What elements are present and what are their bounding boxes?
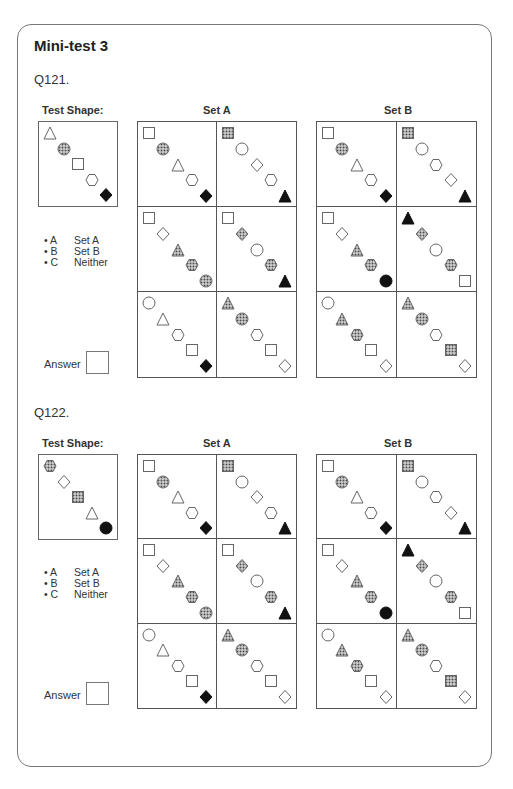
hexagon-icon xyxy=(250,659,264,673)
diamond-icon xyxy=(379,521,393,535)
set-b-cell-2 xyxy=(397,122,477,207)
set-a-header: Set A xyxy=(203,104,231,116)
square-icon xyxy=(458,606,472,620)
triangle-icon xyxy=(335,643,349,657)
square-icon xyxy=(321,126,335,140)
triangle-icon xyxy=(156,643,170,657)
diamond-icon xyxy=(250,490,264,504)
triangle-icon xyxy=(350,490,364,504)
hexagon-icon xyxy=(429,490,443,504)
triangle-icon xyxy=(171,574,185,588)
diamond-icon xyxy=(278,690,292,704)
hexagon-icon xyxy=(429,328,443,342)
square-icon xyxy=(321,459,335,473)
diamond-icon xyxy=(199,189,213,203)
circle-icon xyxy=(415,643,429,657)
set-a-cell-4 xyxy=(217,539,296,623)
set-b-cell-5 xyxy=(317,292,397,377)
question-label-q122: Q122. xyxy=(34,405,69,420)
diamond-icon xyxy=(250,158,264,172)
triangle-icon xyxy=(401,628,415,642)
triangle-icon xyxy=(85,506,99,520)
circle-icon xyxy=(335,142,349,156)
diamond-icon xyxy=(444,506,458,520)
circle-icon xyxy=(429,574,443,588)
option-c[interactable]: • CNeither xyxy=(44,257,108,268)
circle-icon xyxy=(235,142,249,156)
triangle-icon xyxy=(350,158,364,172)
set-a-cell-1 xyxy=(138,122,217,207)
triangle-icon xyxy=(171,243,185,257)
circle-icon xyxy=(250,574,264,588)
set-a-cell-5 xyxy=(138,292,217,377)
hexagon-icon xyxy=(364,258,378,272)
hexagon-icon xyxy=(350,659,364,673)
hexagon-icon xyxy=(171,328,185,342)
square-icon xyxy=(264,674,278,688)
set-b-cell-2 xyxy=(397,455,477,539)
hexagon-icon xyxy=(185,173,199,187)
hexagon-icon xyxy=(250,328,264,342)
hexagon-icon xyxy=(444,258,458,272)
set-b-cell-1 xyxy=(317,455,397,539)
set-b-cell-6 xyxy=(397,292,477,377)
triangle-icon xyxy=(278,274,292,288)
circle-icon xyxy=(235,643,249,657)
circle-icon xyxy=(199,274,213,288)
set-a-cell-2 xyxy=(217,122,296,207)
triangle-icon xyxy=(350,243,364,257)
diamond-icon xyxy=(379,690,393,704)
set-a-grid xyxy=(137,121,297,378)
triangle-icon xyxy=(171,158,185,172)
set-b-cell-3 xyxy=(317,207,397,292)
triangle-icon xyxy=(278,189,292,203)
hexagon-icon xyxy=(264,173,278,187)
triangle-icon xyxy=(350,574,364,588)
circle-icon xyxy=(321,296,335,310)
square-icon xyxy=(185,674,199,688)
answer-box-q121[interactable] xyxy=(86,351,109,374)
answer-box-q122[interactable] xyxy=(86,682,109,705)
triangle-icon xyxy=(156,312,170,326)
circle-icon xyxy=(415,142,429,156)
set-b-header: Set B xyxy=(384,437,412,449)
circle-icon xyxy=(335,475,349,489)
set-a-cell-2 xyxy=(217,455,296,539)
hexagon-icon xyxy=(429,158,443,172)
circle-icon xyxy=(250,243,264,257)
answer-options: • ASet A • BSet B • CNeither xyxy=(44,235,108,268)
answer-label: Answer xyxy=(44,689,81,701)
square-icon xyxy=(221,211,235,225)
triangle-icon xyxy=(278,606,292,620)
square-icon xyxy=(221,126,235,140)
test-shape-header: Test Shape: xyxy=(42,104,104,116)
hexagon-icon xyxy=(350,328,364,342)
circle-icon xyxy=(235,312,249,326)
hexagon-icon xyxy=(364,506,378,520)
set-b-header: Set B xyxy=(384,104,412,116)
square-icon xyxy=(444,343,458,357)
option-c[interactable]: • CNeither xyxy=(44,589,108,600)
diamond-icon xyxy=(156,227,170,241)
diamond-icon xyxy=(199,690,213,704)
triangle-icon xyxy=(401,543,415,557)
circle-icon xyxy=(142,296,156,310)
set-a-cell-5 xyxy=(138,624,217,708)
square-icon xyxy=(142,211,156,225)
square-icon xyxy=(142,543,156,557)
hexagon-icon xyxy=(264,506,278,520)
circle-icon xyxy=(415,312,429,326)
hexagon-icon xyxy=(364,590,378,604)
hexagon-icon xyxy=(171,659,185,673)
square-icon xyxy=(71,490,85,504)
diamond-icon xyxy=(335,227,349,241)
square-icon xyxy=(221,459,235,473)
hexagon-icon xyxy=(264,258,278,272)
diamond-icon xyxy=(444,173,458,187)
page-title: Mini-test 3 xyxy=(34,37,108,54)
set-b-cell-4 xyxy=(397,207,477,292)
set-a-cell-6 xyxy=(217,292,296,377)
diamond-icon xyxy=(458,690,472,704)
set-b-cell-5 xyxy=(317,624,397,708)
set-b-grid xyxy=(316,454,477,709)
